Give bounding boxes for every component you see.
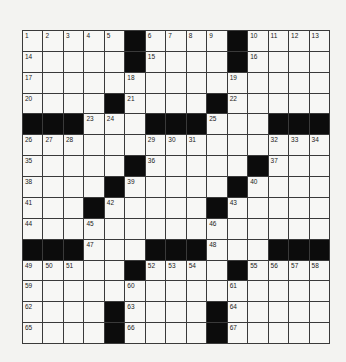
- crossword-cell[interactable]: [166, 177, 185, 197]
- crossword-cell[interactable]: 25: [207, 114, 226, 134]
- crossword-cell[interactable]: [146, 302, 165, 322]
- crossword-cell[interactable]: 8: [187, 31, 206, 51]
- crossword-cell[interactable]: [166, 281, 185, 301]
- crossword-cell[interactable]: [84, 323, 103, 343]
- crossword-cell[interactable]: 58: [310, 261, 329, 281]
- crossword-cell[interactable]: [166, 52, 185, 72]
- crossword-cell[interactable]: [187, 94, 206, 114]
- crossword-cell[interactable]: 22: [228, 94, 247, 114]
- crossword-cell[interactable]: [43, 323, 62, 343]
- crossword-cell[interactable]: [228, 114, 247, 134]
- crossword-cell[interactable]: 36: [146, 156, 165, 176]
- crossword-cell[interactable]: 24: [105, 114, 124, 134]
- crossword-cell[interactable]: [289, 302, 308, 322]
- crossword-cell[interactable]: 20: [23, 94, 42, 114]
- crossword-cell[interactable]: [64, 73, 83, 93]
- crossword-cell[interactable]: [187, 156, 206, 176]
- crossword-cell[interactable]: 50: [43, 261, 62, 281]
- crossword-cell[interactable]: [64, 198, 83, 218]
- crossword-cell[interactable]: [228, 135, 247, 155]
- crossword-cell[interactable]: 35: [23, 156, 42, 176]
- crossword-cell[interactable]: [289, 52, 308, 72]
- crossword-cell[interactable]: [125, 198, 144, 218]
- crossword-cell[interactable]: [64, 219, 83, 239]
- crossword-cell[interactable]: [166, 156, 185, 176]
- crossword-cell[interactable]: 30: [166, 135, 185, 155]
- crossword-cell[interactable]: 11: [269, 31, 288, 51]
- crossword-cell[interactable]: [228, 240, 247, 260]
- crossword-cell[interactable]: [84, 156, 103, 176]
- crossword-cell[interactable]: [84, 281, 103, 301]
- crossword-cell[interactable]: [228, 219, 247, 239]
- crossword-cell[interactable]: [146, 281, 165, 301]
- crossword-cell[interactable]: [289, 281, 308, 301]
- crossword-cell[interactable]: [248, 94, 267, 114]
- crossword-cell[interactable]: [187, 219, 206, 239]
- crossword-cell[interactable]: [105, 261, 124, 281]
- crossword-cell[interactable]: [43, 156, 62, 176]
- crossword-cell[interactable]: [207, 261, 226, 281]
- crossword-cell[interactable]: [84, 73, 103, 93]
- crossword-cell[interactable]: [146, 177, 165, 197]
- crossword-cell[interactable]: 63: [125, 302, 144, 322]
- crossword-cell[interactable]: 14: [23, 52, 42, 72]
- crossword-cell[interactable]: 65: [23, 323, 42, 343]
- crossword-cell[interactable]: [310, 177, 329, 197]
- crossword-cell[interactable]: [84, 302, 103, 322]
- crossword-cell[interactable]: [248, 281, 267, 301]
- crossword-cell[interactable]: [269, 94, 288, 114]
- crossword-cell[interactable]: [248, 323, 267, 343]
- crossword-cell[interactable]: 52: [146, 261, 165, 281]
- crossword-cell[interactable]: [64, 156, 83, 176]
- crossword-cell[interactable]: 39: [125, 177, 144, 197]
- crossword-cell[interactable]: [146, 198, 165, 218]
- crossword-cell[interactable]: 32: [269, 135, 288, 155]
- crossword-cell[interactable]: 55: [248, 261, 267, 281]
- crossword-cell[interactable]: 6: [146, 31, 165, 51]
- crossword-cell[interactable]: 1: [23, 31, 42, 51]
- crossword-cell[interactable]: 51: [64, 261, 83, 281]
- crossword-cell[interactable]: 2: [43, 31, 62, 51]
- crossword-cell[interactable]: 62: [23, 302, 42, 322]
- crossword-cell[interactable]: [248, 198, 267, 218]
- crossword-cell[interactable]: 7: [166, 31, 185, 51]
- crossword-cell[interactable]: [43, 52, 62, 72]
- crossword-cell[interactable]: 37: [269, 156, 288, 176]
- crossword-cell[interactable]: 44: [23, 219, 42, 239]
- crossword-cell[interactable]: 53: [166, 261, 185, 281]
- crossword-cell[interactable]: [228, 156, 247, 176]
- crossword-cell[interactable]: [289, 73, 308, 93]
- crossword-cell[interactable]: [64, 281, 83, 301]
- crossword-cell[interactable]: 9: [207, 31, 226, 51]
- crossword-cell[interactable]: [105, 135, 124, 155]
- crossword-cell[interactable]: 26: [23, 135, 42, 155]
- crossword-cell[interactable]: [269, 281, 288, 301]
- crossword-cell[interactable]: [248, 219, 267, 239]
- crossword-cell[interactable]: [64, 323, 83, 343]
- crossword-cell[interactable]: [43, 219, 62, 239]
- crossword-cell[interactable]: 10: [248, 31, 267, 51]
- crossword-cell[interactable]: [187, 177, 206, 197]
- crossword-cell[interactable]: [125, 240, 144, 260]
- crossword-cell[interactable]: [187, 302, 206, 322]
- crossword-cell[interactable]: [187, 198, 206, 218]
- crossword-cell[interactable]: 28: [64, 135, 83, 155]
- crossword-cell[interactable]: [187, 73, 206, 93]
- crossword-cell[interactable]: [310, 198, 329, 218]
- crossword-cell[interactable]: 66: [125, 323, 144, 343]
- crossword-cell[interactable]: 47: [84, 240, 103, 260]
- crossword-cell[interactable]: 15: [146, 52, 165, 72]
- crossword-cell[interactable]: [248, 240, 267, 260]
- crossword-cell[interactable]: 23: [84, 114, 103, 134]
- crossword-cell[interactable]: 17: [23, 73, 42, 93]
- crossword-cell[interactable]: [125, 135, 144, 155]
- crossword-cell[interactable]: [105, 52, 124, 72]
- crossword-cell[interactable]: [105, 281, 124, 301]
- crossword-cell[interactable]: [310, 281, 329, 301]
- crossword-cell[interactable]: [166, 219, 185, 239]
- crossword-cell[interactable]: [207, 135, 226, 155]
- crossword-cell[interactable]: [166, 302, 185, 322]
- crossword-cell[interactable]: [105, 240, 124, 260]
- crossword-cell[interactable]: [289, 94, 308, 114]
- crossword-cell[interactable]: [269, 198, 288, 218]
